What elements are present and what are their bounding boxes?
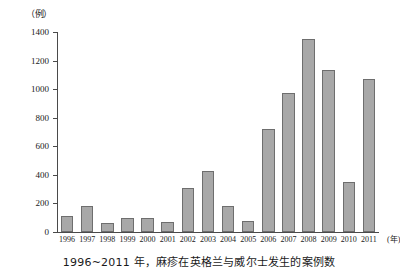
bar-2004 <box>222 206 234 232</box>
bar-series <box>57 32 379 232</box>
bar-2002 <box>182 188 194 232</box>
x-axis-line <box>57 232 379 233</box>
x-tick-label-2009: 2009 <box>321 236 337 244</box>
bar-2005 <box>242 221 254 232</box>
y-tick-label: 1200 <box>31 56 49 65</box>
x-tick-label-1999: 1999 <box>119 236 135 244</box>
bar-2009 <box>322 70 334 232</box>
x-axis-unit-label: (年) <box>387 236 400 244</box>
bar-2001 <box>161 222 173 232</box>
y-tick-label: 1000 <box>31 85 49 94</box>
x-tick-label-2006: 2006 <box>260 236 276 244</box>
y-tick-label: 1400 <box>31 28 49 37</box>
bar-2007 <box>282 93 294 232</box>
y-tick-label: 400 <box>36 170 50 179</box>
x-tick-label-2000: 2000 <box>140 236 156 244</box>
y-tick-label: 800 <box>36 113 50 122</box>
y-tick-label: 200 <box>36 199 50 208</box>
bar-2003 <box>202 171 214 232</box>
x-tick-label-1997: 1997 <box>79 236 95 244</box>
x-tick-label-2010: 2010 <box>341 236 357 244</box>
x-tick-label-2004: 2004 <box>220 236 236 244</box>
bar-2000 <box>141 218 153 232</box>
x-tick-label-2011: 2011 <box>361 236 377 244</box>
x-tick-label-2005: 2005 <box>240 236 256 244</box>
bar-1999 <box>121 218 133 232</box>
x-tick-label-2008: 2008 <box>301 236 317 244</box>
y-tick-label: 0 <box>45 228 50 237</box>
bar-1998 <box>101 223 113 232</box>
bar-1997 <box>81 206 93 232</box>
x-tick-label-1996: 1996 <box>59 236 75 244</box>
x-axis-labels: (年) 199619971998199920002001200220032004… <box>57 236 397 248</box>
bar-2011 <box>363 79 375 232</box>
figure-caption: 1996~2011 年，麻疹在英格兰与威尔士发生的案例数 <box>0 253 398 269</box>
x-tick-label-2003: 2003 <box>200 236 216 244</box>
y-axis-unit-label: （例） <box>26 7 52 20</box>
x-tick-label-2007: 2007 <box>280 236 296 244</box>
bar-2008 <box>302 39 314 232</box>
y-tick: 0 <box>53 232 57 233</box>
bar-2006 <box>262 129 274 232</box>
bar-2010 <box>343 182 355 232</box>
plot-area: 0200400600800100012001400 <box>57 32 379 232</box>
y-tick-label: 600 <box>36 142 50 151</box>
x-tick-label-1998: 1998 <box>99 236 115 244</box>
bar-1996 <box>61 216 73 232</box>
x-tick-label-2001: 2001 <box>160 236 176 244</box>
x-tick-label-2002: 2002 <box>180 236 196 244</box>
